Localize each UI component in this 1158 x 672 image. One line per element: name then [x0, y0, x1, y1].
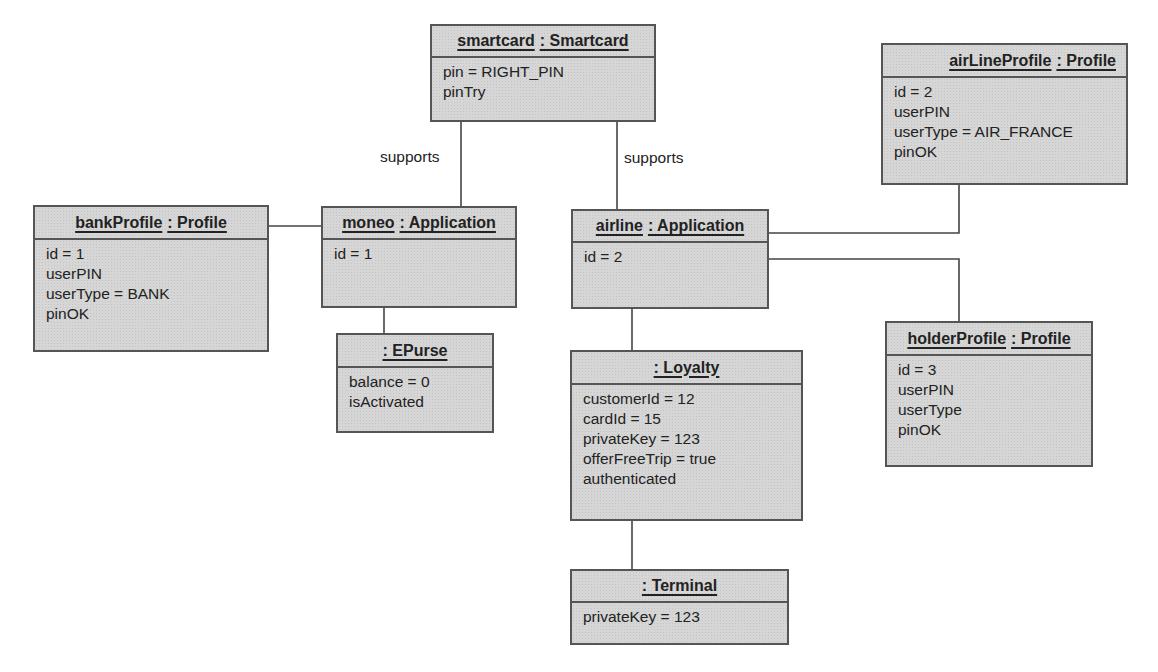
- attribute: id = 1: [334, 244, 515, 264]
- object-header: bankProfile : Profile: [35, 207, 267, 240]
- attribute: privateKey = 123: [583, 429, 801, 449]
- object-epurse[interactable]: : EPurse balance = 0 isActivated: [336, 333, 494, 433]
- attribute: id = 2: [894, 82, 1126, 102]
- attribute: pin = RIGHT_PIN: [443, 62, 654, 82]
- object-header: : Loyalty: [572, 352, 801, 385]
- object-attributes: balance = 0 isActivated: [338, 368, 492, 412]
- attribute: userType = BANK: [46, 284, 267, 304]
- attribute: customerId = 12: [583, 389, 801, 409]
- attribute: pinOK: [46, 304, 267, 324]
- object-header: moneo : Application: [323, 208, 515, 240]
- object-holderprofile[interactable]: holderProfile : Profile id = 3 userPIN u…: [885, 321, 1093, 467]
- object-class: : Smartcard: [540, 32, 629, 50]
- object-attributes: id = 1 userPIN userType = BANK pinOK: [35, 240, 267, 324]
- attribute: cardId = 15: [583, 409, 801, 429]
- object-header: airline : Application: [573, 211, 767, 243]
- link-airline-airlineprofile: [768, 184, 959, 233]
- attribute: id = 1: [46, 244, 267, 264]
- attribute: userPIN: [46, 264, 267, 284]
- object-class: : EPurse: [383, 342, 448, 360]
- object-header: : EPurse: [338, 335, 492, 368]
- attribute: id = 3: [898, 360, 1091, 380]
- attribute: userType: [898, 400, 1091, 420]
- attribute: authenticated: [583, 469, 801, 489]
- object-class: : Application: [648, 217, 744, 235]
- object-name: moneo: [342, 214, 394, 232]
- attribute: offerFreeTrip = true: [583, 449, 801, 469]
- object-name: airline: [596, 217, 643, 235]
- object-airline[interactable]: airline : Application id = 2: [571, 209, 769, 309]
- object-class: : Terminal: [642, 577, 717, 595]
- object-name: smartcard: [457, 32, 534, 50]
- attribute: pinOK: [898, 420, 1091, 440]
- object-attributes: id = 2: [573, 243, 767, 267]
- attribute: balance = 0: [349, 372, 492, 392]
- object-name: airLineProfile: [949, 52, 1051, 70]
- object-name: holderProfile: [907, 330, 1006, 348]
- object-smartcard[interactable]: smartcard : Smartcard pin = RIGHT_PIN pi…: [430, 24, 656, 122]
- attribute: pinOK: [894, 142, 1126, 162]
- object-name: bankProfile: [75, 214, 162, 232]
- attribute: id = 2: [584, 247, 767, 267]
- attribute: privateKey = 123: [583, 607, 787, 627]
- attribute: pinTry: [443, 82, 654, 102]
- attribute: isActivated: [349, 392, 492, 412]
- object-header: smartcard : Smartcard: [432, 26, 654, 58]
- object-class: : Profile: [1011, 330, 1071, 348]
- object-terminal[interactable]: : Terminal privateKey = 123: [570, 569, 789, 645]
- object-attributes: customerId = 12 cardId = 15 privateKey =…: [572, 385, 801, 489]
- object-attributes: pin = RIGHT_PIN pinTry: [432, 58, 654, 102]
- object-class: : Loyalty: [654, 359, 720, 377]
- object-airlineprofile[interactable]: airLineProfile : Profile id = 2 userPIN …: [881, 43, 1128, 185]
- object-loyalty[interactable]: : Loyalty customerId = 12 cardId = 15 pr…: [570, 350, 803, 521]
- object-attributes: id = 1: [323, 240, 515, 264]
- object-moneo[interactable]: moneo : Application id = 1: [321, 206, 517, 308]
- object-header: airLineProfile : Profile: [883, 45, 1126, 78]
- link-label-supports-airline: supports: [624, 149, 683, 167]
- object-bankprofile[interactable]: bankProfile : Profile id = 1 userPIN use…: [33, 205, 269, 352]
- link-label-supports-moneo: supports: [380, 148, 439, 166]
- object-class: : Profile: [167, 214, 227, 232]
- object-attributes: privateKey = 123: [572, 603, 787, 627]
- object-class: : Profile: [1056, 52, 1116, 70]
- attribute: userPIN: [898, 380, 1091, 400]
- object-attributes: id = 2 userPIN userType = AIR_FRANCE pin…: [883, 78, 1126, 162]
- attribute: userType = AIR_FRANCE: [894, 122, 1126, 142]
- object-attributes: id = 3 userPIN userType pinOK: [887, 356, 1091, 440]
- attribute: userPIN: [894, 102, 1126, 122]
- object-header: : Terminal: [572, 571, 787, 603]
- object-header: holderProfile : Profile: [887, 323, 1091, 356]
- link-airline-holderprofile: [768, 259, 959, 322]
- object-class: : Application: [400, 214, 496, 232]
